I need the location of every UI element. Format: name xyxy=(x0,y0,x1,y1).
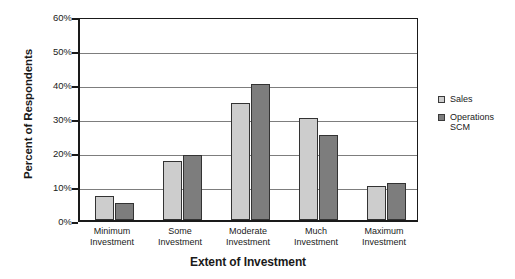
bar xyxy=(115,203,134,220)
legend-swatch-icon xyxy=(438,96,445,103)
y-tick-mark xyxy=(72,86,78,88)
y-tick-label: 20% xyxy=(32,149,72,159)
legend-item[interactable]: Operations SCM xyxy=(438,112,514,133)
bar xyxy=(367,186,386,220)
x-category-label: Maximum Investment xyxy=(350,226,418,248)
x-category-label: Minimum Investment xyxy=(78,226,146,248)
gridline xyxy=(80,87,417,88)
bar xyxy=(387,183,406,220)
x-category-label: Some Investment xyxy=(146,226,214,248)
y-tick-label: 60% xyxy=(32,13,72,23)
bar xyxy=(183,155,202,220)
legend-label: Sales xyxy=(450,94,473,105)
y-tick-mark xyxy=(72,120,78,122)
bar xyxy=(251,84,270,220)
y-tick-label: 0% xyxy=(32,217,72,227)
bar xyxy=(95,196,114,220)
bar xyxy=(231,103,250,220)
y-tick-label: 30% xyxy=(32,115,72,125)
bar xyxy=(163,161,182,221)
legend-label: Operations SCM xyxy=(450,112,494,133)
y-tick-mark xyxy=(72,18,78,20)
y-tick-mark xyxy=(72,188,78,190)
legend-swatch-icon xyxy=(438,114,445,121)
y-tick-label: 40% xyxy=(32,81,72,91)
y-tick-label: 50% xyxy=(32,47,72,57)
bar xyxy=(319,135,338,220)
legend-item[interactable]: Sales xyxy=(438,94,514,105)
y-tick-mark xyxy=(72,154,78,156)
bar xyxy=(299,118,318,220)
gridline xyxy=(80,53,417,54)
x-axis-title: Extent of Investment xyxy=(78,255,418,269)
plot-area xyxy=(78,18,418,222)
x-category-label: Much Investment xyxy=(282,226,350,248)
x-category-label: Moderate Investment xyxy=(214,226,282,248)
y-tick-mark xyxy=(72,222,78,224)
chart-legend: SalesOperations SCM xyxy=(438,94,514,140)
y-tick-mark xyxy=(72,52,78,54)
y-tick-label: 10% xyxy=(32,183,72,193)
y-axis-tick-labels: 60%50%40%30%20%10%0% xyxy=(28,18,72,222)
bar-chart: Percent of Respondents 60%50%40%30%20%10… xyxy=(0,0,515,279)
